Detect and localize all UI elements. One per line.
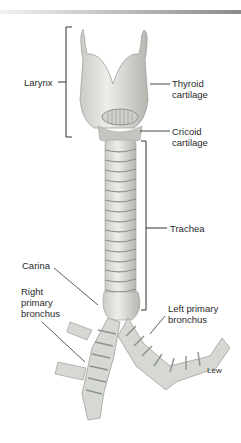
label-larynx: Larynx xyxy=(24,77,53,88)
trachea-shape xyxy=(105,140,136,295)
larynx-bracket xyxy=(66,27,72,137)
label-right-primary-bronchus: Right primary bronchus xyxy=(21,286,60,319)
trachea-illustration xyxy=(0,0,241,443)
label-trachea: Trachea xyxy=(170,223,205,234)
label-thyroid-cartilage: Thyroid cartilage xyxy=(172,78,208,100)
trachea-bracket xyxy=(141,141,146,310)
carina-leader xyxy=(54,268,98,305)
left-bronchus-leader xyxy=(150,316,165,334)
label-cricoid-cartilage: Cricoid cartilage xyxy=(172,126,208,148)
artist-credit: Lew xyxy=(207,365,222,376)
label-carina: Carina xyxy=(22,260,50,271)
label-left-primary-bronchus: Left primary bronchus xyxy=(168,303,218,325)
thyroid-cartilage-shape xyxy=(80,30,148,143)
